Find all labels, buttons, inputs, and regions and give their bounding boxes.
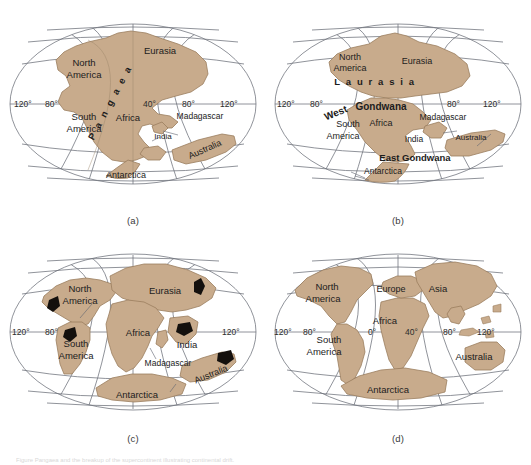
lon-label-d-left-80: 80° bbox=[303, 327, 316, 337]
lon-label-a-right-80: 80° bbox=[182, 99, 195, 109]
label-madagascar-a: Madagascar bbox=[177, 111, 224, 121]
lon-label-a-right-40: 40° bbox=[143, 99, 156, 109]
lon-label-b-right-80: 80° bbox=[447, 99, 460, 109]
lon-label-b-left-120: 120° bbox=[277, 99, 295, 109]
label-india-c: India bbox=[177, 339, 198, 350]
panel-caption-a: (a) bbox=[0, 215, 266, 226]
lon-label-c-left-120: 120° bbox=[12, 327, 30, 337]
label-africa-d: Africa bbox=[373, 315, 398, 326]
map-panel-d: North America Europe Asia Africa South A… bbox=[265, 232, 531, 464]
label-india-b: India bbox=[405, 134, 424, 144]
lon-label-a-left-80: 80° bbox=[45, 99, 58, 109]
label-north-america-d: North bbox=[315, 281, 338, 292]
label-south-america-c-2: America bbox=[59, 350, 95, 361]
label-madagascar-c: Madagascar bbox=[145, 358, 192, 368]
label-south-america-a: South bbox=[72, 111, 97, 122]
lon-label-a-right-120: 120° bbox=[220, 99, 238, 109]
label-asia-d: Asia bbox=[429, 283, 448, 294]
label-north-america-a: North bbox=[72, 57, 95, 68]
panel-caption-c: (c) bbox=[0, 433, 266, 444]
label-eurasia-b: Eurasia bbox=[402, 56, 433, 66]
label-south-america-d: South bbox=[317, 334, 342, 345]
label-south-america-d-2: America bbox=[307, 346, 343, 357]
label-eurasia-a: Eurasia bbox=[144, 45, 177, 56]
figure-caption: Figure Pangaea and the breakup of the su… bbox=[16, 457, 516, 464]
label-north-america-c: North bbox=[68, 283, 91, 294]
panel-caption-d: (d) bbox=[265, 433, 531, 444]
label-africa-a: Africa bbox=[116, 112, 141, 123]
label-east-gondwana: East Gondwana bbox=[379, 152, 451, 163]
label-south-america-c: South bbox=[64, 338, 89, 349]
label-australia-d: Australia bbox=[456, 351, 494, 362]
lon-label-d-right-80: 80° bbox=[443, 327, 456, 337]
label-africa-c: Africa bbox=[126, 327, 151, 338]
map-d-svg: North America Europe Asia Africa South A… bbox=[265, 232, 531, 442]
lon-label-c-left-80: 80° bbox=[45, 327, 58, 337]
label-north-america-a-2: America bbox=[67, 69, 103, 80]
lon-label-a-left-120: 120° bbox=[14, 99, 32, 109]
label-antarctica-d: Antarctica bbox=[367, 384, 410, 395]
lon-label-c-right-120: 120° bbox=[222, 327, 240, 337]
label-south-america-b: South bbox=[336, 119, 360, 129]
label-india-a: India bbox=[154, 132, 172, 141]
lon-label-d-left-120: 120° bbox=[274, 327, 292, 337]
lon-label-b-left-80: 80° bbox=[310, 99, 323, 109]
map-c-svg: North America Eurasia South America Afri… bbox=[0, 232, 266, 442]
label-africa-b: Africa bbox=[369, 118, 392, 128]
label-europe-d: Europe bbox=[376, 284, 405, 294]
continental-drift-figure: North America Eurasia South America Afri… bbox=[0, 0, 531, 465]
label-madagascar-b: Madagascar bbox=[420, 112, 467, 122]
lon-label-b-right-120: 120° bbox=[483, 99, 501, 109]
map-panel-b: North America Eurasia L a u r a s i a Go… bbox=[265, 0, 531, 232]
map-panel-c: North America Eurasia South America Afri… bbox=[0, 232, 266, 464]
lon-label-d-right-40: 40° bbox=[405, 327, 418, 337]
lon-label-d-mid-0: 0° bbox=[368, 327, 376, 337]
map-panel-a: North America Eurasia South America Afri… bbox=[0, 0, 266, 232]
label-north-america-b-2: America bbox=[333, 63, 366, 73]
map-b-svg: North America Eurasia L a u r a s i a Go… bbox=[265, 0, 531, 210]
label-gondwana: Gondwana bbox=[355, 101, 407, 112]
label-antarctica-b: Antarctica bbox=[364, 166, 402, 176]
panel-caption-b: (b) bbox=[265, 215, 531, 226]
label-north-america-c-2: America bbox=[63, 295, 99, 306]
label-antarctica-c: Antarctica bbox=[116, 389, 159, 400]
label-eurasia-c: Eurasia bbox=[149, 285, 182, 296]
label-north-america-d-2: America bbox=[306, 293, 342, 304]
label-australia-b: Australia bbox=[455, 133, 487, 142]
label-north-america-b: North bbox=[339, 52, 361, 62]
label-laurasia: L a u r a s i a bbox=[334, 76, 415, 87]
label-antarctica-a: Antarctica bbox=[106, 170, 146, 180]
map-a-svg: North America Eurasia South America Afri… bbox=[0, 0, 266, 210]
lon-label-d-right-120: 120° bbox=[477, 327, 495, 337]
label-south-america-b-2: America bbox=[326, 131, 359, 141]
